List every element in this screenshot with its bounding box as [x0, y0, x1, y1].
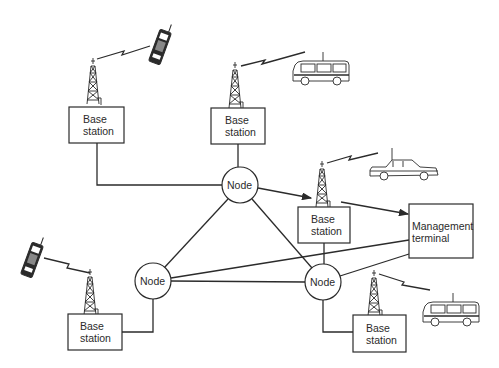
handheld-phone-icon [21, 234, 47, 278]
antenna-tower-icon [368, 270, 382, 317]
link-node-left-to-node-right [171, 281, 305, 282]
node-label: Node [140, 275, 165, 287]
link-node-top-to-node-left [164, 199, 228, 268]
car-icon [370, 148, 438, 180]
antenna-tower-icon [229, 62, 243, 109]
base-station-label: Base station [366, 322, 397, 346]
base-station-label-line1: Base [83, 113, 114, 125]
base-station-label-line1: Base [80, 320, 111, 332]
arrow-bs-center-right-to-terminal [341, 202, 408, 214]
base-station-label-line1: Base [366, 322, 397, 334]
radio-link-car [327, 153, 378, 163]
node-label: Node [310, 276, 335, 288]
base-station-label: Base station [311, 213, 342, 237]
base-station-label-line1: Base [311, 213, 342, 225]
base-station-label-line2: station [311, 225, 342, 237]
base-station-label-line2: station [225, 126, 256, 138]
base-station-label-line2: station [366, 334, 397, 346]
base-station-label-line2: station [80, 332, 111, 344]
link-node-left-to-terminal [171, 240, 409, 278]
base-station-label-line2: station [83, 125, 114, 137]
connections [97, 143, 409, 332]
antenna-tower-icon [84, 269, 98, 316]
link-node-right-to-bs-bottom-right [323, 300, 353, 332]
radio-link-phone-top [97, 46, 150, 59]
management-terminal-label-line1: Management [412, 220, 473, 232]
base-station-label: Base station [80, 320, 111, 344]
minibus-icon [423, 293, 479, 326]
radio-link-phone-left [44, 258, 90, 273]
handheld-phone-icon [149, 21, 175, 65]
management-terminal-label: Management terminal [412, 220, 473, 244]
management-terminal-label-line2: terminal [412, 232, 473, 244]
link-bs-top-left-to-node-top [97, 143, 222, 185]
arrow-node-top-to-bs-center-right [258, 188, 311, 198]
radio-link-minibus-bottom [379, 274, 430, 290]
base-station-label-line1: Base [225, 114, 256, 126]
node-label: Node [227, 179, 252, 191]
antenna-tower-icon [316, 161, 330, 208]
link-node-left-to-bs-bottom-left [122, 299, 153, 332]
base-station-label: Base station [83, 113, 114, 137]
minibus-icon [293, 52, 349, 85]
antenna-tower-icon [87, 58, 101, 105]
base-station-label: Base station [225, 114, 256, 138]
